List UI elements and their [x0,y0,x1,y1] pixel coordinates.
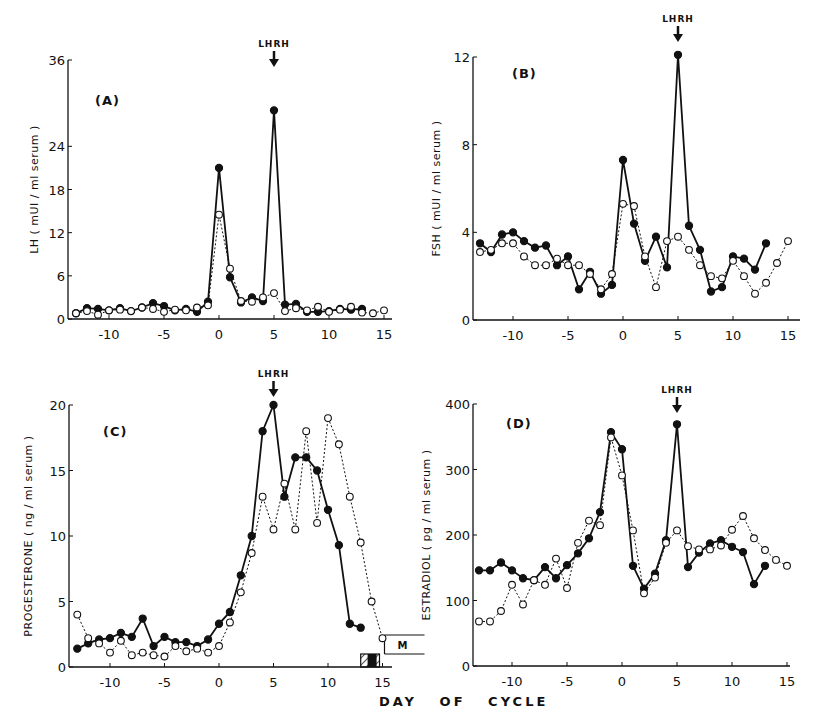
control-data-point [575,539,582,546]
control-data-point [84,308,91,315]
control-data-point [337,306,344,313]
treated-data-point [684,563,691,570]
control-data-point [564,585,571,592]
y-tick-label: 200 [445,528,470,543]
panel-a-lh: 0612182436-10-5051015LH ( mUI / ml serum… [28,39,392,342]
control-data-point [510,240,517,247]
treated-data-point [270,107,277,114]
y-tick-label: 6 [57,269,65,284]
control-data-point [784,562,791,569]
lhrh-label: LHRH [661,385,693,395]
control-data-point [531,577,538,584]
control-data-point [499,240,506,247]
control-data-point [630,527,637,534]
lhrh-label: LHRH [258,39,290,49]
x-tick-label: -5 [158,675,171,690]
x-tick-label: -10 [502,328,523,343]
y-axis-title: FSH ( mUI / ml serum ) [430,120,443,256]
control-data-point [532,262,539,269]
y-tick-label: 12 [48,226,65,241]
treated-data-point [292,454,299,461]
treated-data-point [139,615,146,622]
panel-b-fsh: 04812-10-5051015FSH ( mUI / ml serum )(B… [430,14,800,343]
menses-solid-block [368,654,377,667]
x-tick-label: 5 [269,675,277,690]
treated-data-point [575,286,582,293]
treated-data-point [739,548,746,555]
treated-data-point [552,575,559,582]
y-tick-label: 15 [49,464,66,479]
x-tick-label: 5 [673,674,681,689]
x-tick-label: 0 [618,674,626,689]
control-data-point [707,546,714,553]
lhrh-label: LHRH [662,14,694,24]
control-data-point [216,211,223,218]
treated-data-point [542,242,549,249]
control-data-point [128,652,135,659]
x-tick-label: 15 [779,674,796,689]
lhrh-arrow-icon [269,59,279,67]
control-data-point [259,493,266,500]
y-axis-title: PROGESTERONE ( ng / ml serum ) [22,435,35,636]
control-data-point [95,311,102,318]
control-data-point [598,286,605,293]
x-tick-label: 10 [321,327,338,342]
control-data-point [543,262,550,269]
y-tick-label: 18 [48,183,65,198]
control-data-point [520,601,527,608]
control-data-point [370,310,377,317]
treated-data-point [574,550,581,557]
treated-data-point [161,633,168,640]
control-data-point [586,517,593,524]
treated-data-point [215,164,222,171]
y-tick-label: 36 [48,53,65,68]
treated-data-point [476,240,483,247]
control-data-point [565,262,572,269]
control-data-point [381,307,388,314]
control-data-point [293,305,300,312]
control-data-point [150,652,157,659]
lhrh-arrow-icon [672,405,682,413]
control-data-point [118,637,125,644]
control-data-point [553,555,560,562]
control-data-point [357,539,364,546]
treated-data-point [215,620,222,627]
treated-data-point [751,266,758,273]
y-tick-label: 5 [58,595,66,610]
treated-data-point [314,467,321,474]
treated-series-line [77,405,360,649]
control-data-point [487,618,494,625]
treated-data-point [486,567,493,574]
control-data-point [379,635,386,642]
control-data-point [237,589,244,596]
control-data-point [653,284,660,291]
control-data-point [498,608,505,615]
control-data-point [304,307,311,314]
lhrh-arrow-icon [673,34,683,42]
control-data-point [740,513,747,520]
control-data-point [619,472,626,479]
y-tick-label: 20 [49,398,66,413]
control-data-point [477,249,484,256]
treated-data-point [237,572,244,579]
control-data-point [150,306,157,313]
control-data-point [172,306,179,313]
treated-data-point [346,620,353,627]
control-data-point [281,480,288,487]
control-data-point [521,253,528,260]
control-data-point [762,547,769,554]
x-tick-label: 15 [376,327,393,342]
treated-data-point [281,301,288,308]
control-data-point [85,635,92,642]
control-series-line [480,204,788,294]
treated-data-point [553,262,560,269]
treated-data-point [740,255,747,262]
control-data-point [172,643,179,650]
x-tick-label: 10 [724,674,741,689]
x-axis-title: DAY OF CYCLE [379,694,548,709]
lhrh-label: LHRH [258,369,290,379]
y-tick-label: 12 [453,50,470,65]
control-data-point [183,648,190,655]
y-tick-label: 24 [48,139,65,154]
menses-label: M [398,640,408,651]
